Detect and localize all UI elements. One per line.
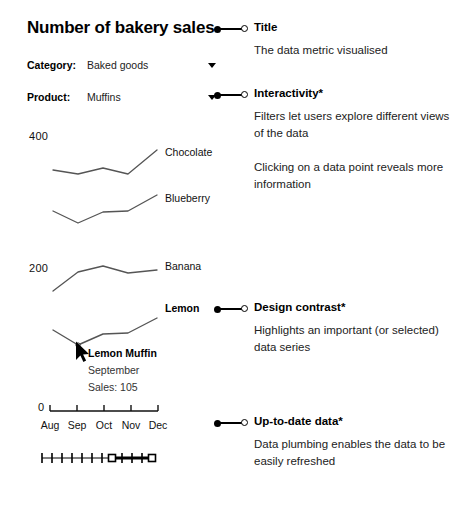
tooltip-title: Lemon Muffin bbox=[88, 347, 157, 359]
series-label-lemon[interactable]: Lemon bbox=[165, 302, 199, 314]
annotation-heading-up-to-date-data: Up-to-date data* bbox=[254, 415, 343, 427]
series-line-banana[interactable] bbox=[53, 266, 157, 291]
series-label-blueberry[interactable]: Blueberry bbox=[165, 192, 210, 204]
series-line-blueberry[interactable] bbox=[53, 195, 157, 223]
connector-ring-icon bbox=[241, 305, 248, 312]
connector-ring-icon bbox=[241, 419, 248, 426]
x-tick-oct: Oct bbox=[90, 419, 118, 431]
annotation-body-interactivity-1: Filters let users explore different view… bbox=[254, 108, 459, 142]
connector-line bbox=[220, 422, 242, 424]
connector-line bbox=[220, 94, 242, 96]
series-line-lemon[interactable] bbox=[53, 318, 157, 345]
slider-handle-start bbox=[109, 455, 116, 462]
series-line-chocolate[interactable] bbox=[53, 150, 157, 174]
tooltip-metric: Sales: 105 bbox=[88, 381, 138, 393]
annotation-body-interactivity-2: Clicking on a data point reveals more in… bbox=[254, 159, 459, 193]
x-axis bbox=[50, 405, 158, 411]
slider-handle-end bbox=[149, 455, 156, 462]
connector-line bbox=[220, 28, 242, 30]
date-range-slider[interactable] bbox=[0, 446, 230, 474]
connector-line bbox=[220, 308, 242, 310]
connector-ring-icon bbox=[241, 91, 248, 98]
annotation-body-title: The data metric visualised bbox=[254, 42, 459, 59]
annotation-heading-interactivity: Interactivity* bbox=[254, 87, 323, 99]
annotation-heading-design-contrast: Design contrast* bbox=[254, 301, 345, 313]
connector-up-to-date-data bbox=[214, 418, 250, 428]
x-tick-sep: Sep bbox=[63, 419, 91, 431]
connector-design-contrast bbox=[214, 304, 250, 314]
x-tick-dec: Dec bbox=[144, 419, 172, 431]
annotation-body-up-to-date-data: Data plumbing enables the data to be eas… bbox=[254, 436, 459, 470]
series-label-banana[interactable]: Banana bbox=[165, 260, 201, 272]
connector-ring-icon bbox=[241, 25, 248, 32]
x-tick-nov: Nov bbox=[117, 419, 145, 431]
tooltip-period: September bbox=[88, 364, 139, 376]
annotation-heading-title: Title bbox=[254, 21, 277, 33]
series-label-chocolate[interactable]: Chocolate bbox=[165, 146, 212, 158]
annotated-chart-illustration: Number of bakery sales Category: Baked g… bbox=[0, 0, 460, 507]
connector-title bbox=[214, 24, 250, 34]
annotation-body-design-contrast: Highlights an important (or selected) da… bbox=[254, 322, 459, 356]
x-axis-tick-labels: Aug Sep Oct Nov Dec bbox=[0, 419, 230, 435]
connector-interactivity bbox=[214, 90, 250, 100]
x-tick-aug: Aug bbox=[36, 419, 64, 431]
